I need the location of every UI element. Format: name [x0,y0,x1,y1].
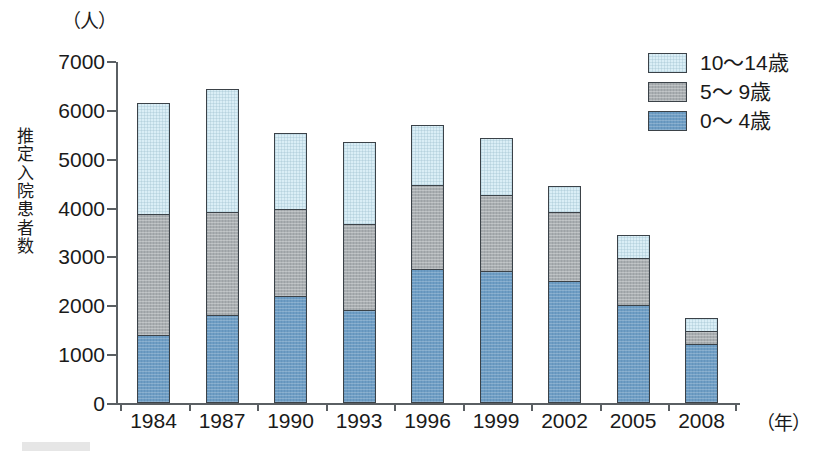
y-tick-label-1000: 1000 [29,344,105,365]
legend-swatch-0 [648,53,687,73]
y-tick-label-2000: 2000 [29,295,105,316]
legend-item-2[interactable]: 0〜 4歳 [648,106,834,135]
y-tick-label-6000: 6000 [29,100,105,121]
bar-segment-1990-10-14 [274,133,307,211]
bar-segment-2005-10-14 [617,235,650,259]
bar-segment-1993-5-9 [343,224,376,312]
bar-segment-1984-0-4 [137,335,170,403]
bar-segment-1999-10-14 [480,138,513,197]
bar-segment-2008-0-4 [685,344,718,403]
bar-segment-1990-0-4 [274,296,307,403]
legend-label-1: 5〜 9歳 [700,81,771,102]
y-axis-unit-label: （人） [62,6,116,33]
bar-segment-1996-10-14 [411,125,444,186]
legend-label-2: 0〜 4歳 [700,110,771,131]
legend-swatch-2 [648,111,687,131]
bar-segment-2002-5-9 [548,212,581,283]
bar-segment-2005-5-9 [617,258,650,307]
stacked-bar-chart: （人） 推定入院患者数 0100020003000400050006000700… [0,0,834,455]
y-tick-1000 [107,354,116,356]
bar-segment-1987-5-9 [206,212,239,317]
x-axis-line [116,403,740,405]
y-axis-line [116,62,118,404]
bar-segment-1984-10-14 [137,103,170,215]
legend-label-0: 10〜14歳 [700,52,789,73]
bar-segment-1996-0-4 [411,269,444,403]
bar-segment-1993-0-4 [343,310,376,403]
y-tick-label-5000: 5000 [29,149,105,170]
bar-segment-1996-5-9 [411,185,444,271]
bar-1999 [480,138,513,404]
legend-item-0[interactable]: 10〜14歳 [648,48,834,77]
y-axis-tick-labels: 01000200030004000500060007000 [25,62,105,404]
y-tick-0 [107,403,116,405]
bar-segment-1987-0-4 [206,315,239,403]
y-tick-7000 [107,61,116,63]
legend-swatch-1 [648,82,687,102]
y-tick-label-7000: 7000 [29,51,105,72]
bar-2005 [617,235,650,403]
corner-mark [22,442,90,451]
bar-1993 [343,142,376,403]
y-tick-3000 [107,256,116,258]
x-axis-unit-label: （年） [756,408,810,435]
bar-segment-1990-5-9 [274,209,307,297]
bar-2002 [548,186,581,403]
y-tick-4000 [107,208,116,210]
x-tick-label-2008: 2008 [662,410,742,431]
bar-1984 [137,103,170,403]
bar-1987 [206,89,239,403]
y-tick-2000 [107,305,116,307]
y-tick-label-4000: 4000 [29,198,105,219]
legend: 10〜14歳5〜 9歳0〜 4歳 [648,48,834,135]
legend-item-1[interactable]: 5〜 9歳 [648,77,834,106]
plot-area [116,62,740,404]
bar-segment-1984-5-9 [137,214,170,336]
bar-segment-1999-0-4 [480,271,513,403]
bar-segment-2005-0-4 [617,305,650,403]
y-tick-label-0: 0 [29,393,105,414]
bar-2008 [685,318,718,403]
bar-segment-1987-10-14 [206,89,239,214]
bar-segment-1993-10-14 [343,142,376,225]
bar-segment-2002-10-14 [548,186,581,213]
bar-segment-2002-0-4 [548,281,581,403]
y-tick-label-3000: 3000 [29,246,105,267]
bar-1996 [411,125,444,403]
y-tick-5000 [107,159,116,161]
y-tick-6000 [107,110,116,112]
bar-1990 [274,133,307,403]
bar-segment-1999-5-9 [480,195,513,273]
